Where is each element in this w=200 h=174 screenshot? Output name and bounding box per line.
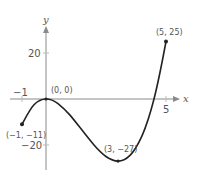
y-axis-label: y (42, 14, 49, 25)
function-graph: x y −1 5 20 −20 (−1, −11) (0, 0) (3, −27… (0, 0, 200, 174)
y-tick-label-20: 20 (28, 48, 41, 59)
y-tick-label-neg20: −20 (21, 140, 42, 151)
x-axis-label: x (183, 93, 189, 104)
label-point-neg1: (−1, −11) (6, 131, 46, 140)
y-axis-arrow-icon (43, 26, 49, 33)
endpoint-5 (164, 40, 168, 44)
endpoint-neg1 (20, 122, 24, 126)
label-point-end: (5, 25) (156, 28, 183, 37)
point-origin (44, 97, 47, 100)
function-curve (22, 42, 166, 162)
label-point-minimum: (3, −27) (104, 145, 137, 154)
label-point-origin: (0, 0) (51, 86, 73, 95)
point-minimum (116, 160, 119, 163)
x-tick-label-neg1: −1 (13, 87, 28, 98)
x-tick-label-5: 5 (163, 104, 169, 115)
x-axis-arrow-icon (173, 96, 180, 102)
